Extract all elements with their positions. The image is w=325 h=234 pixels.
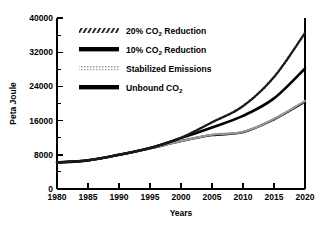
chart-figure: 0 8000 16000 24000 32000 40000 Peta Joul… bbox=[0, 0, 325, 234]
y-tick-label: 24000 bbox=[29, 81, 53, 91]
legend-label-20pct: 20% CO2 Reduction bbox=[126, 26, 206, 37]
x-tick-label: 2005 bbox=[203, 192, 222, 202]
y-tick-label: 32000 bbox=[29, 47, 53, 57]
x-axis-title: Years bbox=[170, 208, 193, 218]
x-tick-label: 2015 bbox=[265, 192, 284, 202]
x-tick-label: 1995 bbox=[141, 192, 160, 202]
y-tick-label: 40000 bbox=[29, 13, 53, 23]
line-chart: 0 8000 16000 24000 32000 40000 Peta Joul… bbox=[0, 0, 325, 234]
x-tick-label: 1990 bbox=[110, 192, 129, 202]
x-tick-label: 1980 bbox=[48, 192, 67, 202]
x-axis-tick-labels: 1980 1985 1990 1995 2000 2005 2010 2015 … bbox=[48, 192, 315, 202]
legend-label-stabilized: Stabilized Emissions bbox=[126, 64, 212, 74]
legend-label-10pct: 10% CO2 Reduction bbox=[126, 45, 206, 56]
x-tick-label: 1985 bbox=[79, 192, 98, 202]
hatched-swatch-icon bbox=[79, 28, 119, 33]
y-axis-title: Peta Joule bbox=[8, 82, 18, 125]
y-tick-label: 8000 bbox=[34, 150, 53, 160]
thick-solid-swatch-icon bbox=[79, 85, 119, 89]
thick-solid-swatch-icon bbox=[79, 47, 119, 51]
y-tick-label: 16000 bbox=[29, 116, 53, 126]
x-tick-label: 2020 bbox=[296, 192, 315, 202]
x-tick-label: 2010 bbox=[234, 192, 253, 202]
x-tick-label: 2000 bbox=[172, 192, 191, 202]
legend-label-unbound: Unbound CO2 bbox=[126, 83, 183, 94]
light-dotted-swatch-icon bbox=[79, 66, 119, 70]
